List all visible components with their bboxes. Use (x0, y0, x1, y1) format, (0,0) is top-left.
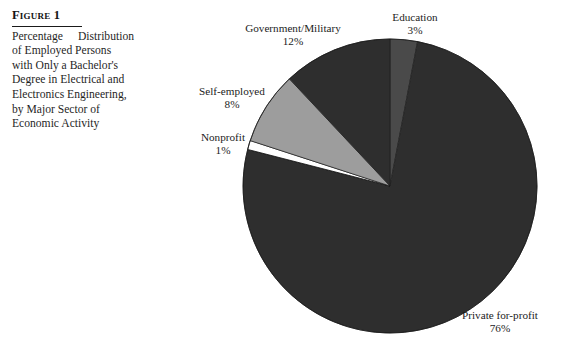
caption-line: by Major Sector of (12, 103, 134, 118)
pie-label-private-for-profit: Private for-profit 76% (442, 309, 558, 335)
caption-line: Economic Activity (12, 117, 134, 132)
figure-caption-text: PercentageDistribution of Employed Perso… (12, 30, 134, 132)
pie-outline (243, 39, 537, 333)
figure-number-label: Figure 1 (12, 8, 82, 27)
pie-label-name: Education (370, 11, 460, 24)
pie-label-value: 1% (180, 144, 266, 157)
pie-label-name: Government/Military (228, 22, 358, 35)
figure-caption-block: Figure 1 PercentageDistribution of Emplo… (12, 8, 134, 132)
caption-word: Percentage (12, 30, 63, 45)
pie-label-value: 12% (228, 35, 358, 48)
pie-label-government-military: Government/Military 12% (228, 22, 358, 48)
pie-slice-government-military (289, 39, 390, 186)
caption-line: PercentageDistribution (12, 30, 134, 45)
pie-label-value: 76% (442, 322, 558, 335)
pie-label-name: Private for-profit (442, 309, 558, 322)
caption-line: Degree in Electrical and (12, 73, 134, 88)
pie-slice-private-for-profit (243, 42, 537, 333)
caption-line: with Only a Bachelor's (12, 59, 134, 74)
pie-label-education: Education 3% (370, 11, 460, 37)
pie-slice-education (390, 39, 418, 186)
pie-slice-nonprofit (248, 141, 390, 186)
pie-label-name: Self-employed (180, 85, 284, 98)
pie-label-nonprofit: Nonprofit 1% (180, 131, 266, 157)
caption-word: Distribution (78, 30, 134, 45)
pie-label-value: 8% (180, 98, 284, 111)
pie-label-value: 3% (370, 24, 460, 37)
pie-label-self-employed: Self-employed 8% (180, 85, 284, 111)
pie-label-name: Nonprofit (180, 131, 266, 144)
figure-root: Figure 1 PercentageDistribution of Emplo… (0, 0, 564, 354)
caption-line: Electronics Engineering, (12, 88, 134, 103)
caption-line: of Employed Persons (12, 44, 134, 59)
